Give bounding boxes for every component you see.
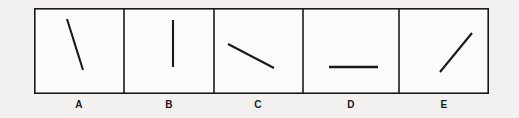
panel-label-e: E xyxy=(424,99,464,111)
figure-container: A B C D E xyxy=(0,0,519,118)
figure-frame xyxy=(35,9,488,93)
panel-label-c: C xyxy=(238,99,278,111)
panel-label-a: A xyxy=(59,99,99,111)
panel-label-b: B xyxy=(149,99,189,111)
panel-label-d: D xyxy=(331,99,371,111)
